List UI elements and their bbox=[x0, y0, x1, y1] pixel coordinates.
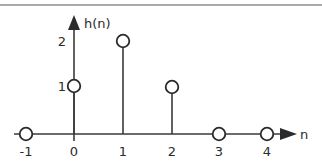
x-tick-label-n0: 0 bbox=[70, 144, 78, 159]
y-tick-label-2: 2 bbox=[58, 34, 66, 49]
x-axis-arrowhead bbox=[280, 128, 297, 140]
x-tick-label-n4: 4 bbox=[263, 144, 271, 159]
data-point-marker-n2 bbox=[166, 81, 179, 94]
x-tick-label-n3: 3 bbox=[215, 144, 223, 159]
data-point-marker-n1 bbox=[117, 35, 130, 48]
x-tick-label-n2: 2 bbox=[168, 144, 176, 159]
data-point-marker-n0 bbox=[68, 80, 81, 93]
data-point-marker-n4 bbox=[261, 128, 274, 141]
x-axis-label: n bbox=[300, 127, 308, 142]
x-tick-label-n-minus1: -1 bbox=[20, 144, 33, 159]
data-point-marker-n-minus1 bbox=[20, 128, 33, 141]
y-axis-arrowhead bbox=[68, 15, 80, 30]
y-axis-label: h(n) bbox=[84, 16, 111, 31]
stem-plot-canvas: 2 1 h(n) -1 0 1 2 3 4 n bbox=[0, 0, 322, 163]
x-tick-label-n1: 1 bbox=[119, 144, 127, 159]
data-point-marker-n3 bbox=[213, 128, 226, 141]
y-tick-label-1: 1 bbox=[58, 79, 66, 94]
stem-plot-figure: 2 1 h(n) -1 0 1 2 3 4 n bbox=[0, 0, 322, 163]
